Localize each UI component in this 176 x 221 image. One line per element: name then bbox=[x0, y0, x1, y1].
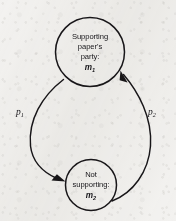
edge-left-arrowhead-icon bbox=[52, 174, 66, 181]
edge-right-curve bbox=[112, 75, 151, 202]
state-not-supporting-symbol: m2 bbox=[86, 191, 97, 201]
state-transition-diagram: Supporting paper's party: m1 Not support… bbox=[0, 0, 176, 221]
edge-right-label-subscript: 2 bbox=[153, 111, 156, 118]
edge-left-label: p1 bbox=[15, 107, 24, 118]
figure-canvas: Supporting paper's party: m1 Not support… bbox=[0, 0, 176, 221]
state-supporting[interactable]: Supporting paper's party: m1 bbox=[56, 18, 125, 87]
state-supporting-symbol: m1 bbox=[85, 63, 95, 73]
edge-not-supporting-to-supporting bbox=[112, 71, 151, 202]
state-supporting-line-3: party: bbox=[81, 52, 100, 61]
state-not-supporting-symbol-base: m bbox=[86, 191, 93, 200]
state-supporting-line-1: Supporting bbox=[72, 32, 108, 41]
edge-right-label: p2 bbox=[147, 107, 156, 118]
state-not-supporting-symbol-subscript: 2 bbox=[92, 195, 97, 201]
state-supporting-symbol-base: m bbox=[85, 63, 92, 72]
state-not-supporting[interactable]: Not supporting: m2 bbox=[66, 160, 117, 211]
edge-right-arrowhead-icon bbox=[120, 71, 128, 83]
state-not-supporting-line-1: Not bbox=[85, 170, 98, 179]
edge-supporting-to-not-supporting bbox=[30, 80, 65, 182]
state-supporting-symbol-subscript: 1 bbox=[92, 67, 95, 73]
state-supporting-line-2: paper's bbox=[78, 42, 103, 51]
edge-left-label-subscript: 1 bbox=[21, 111, 24, 118]
edge-left-curve bbox=[30, 80, 63, 179]
state-not-supporting-line-2: supporting: bbox=[72, 180, 109, 189]
